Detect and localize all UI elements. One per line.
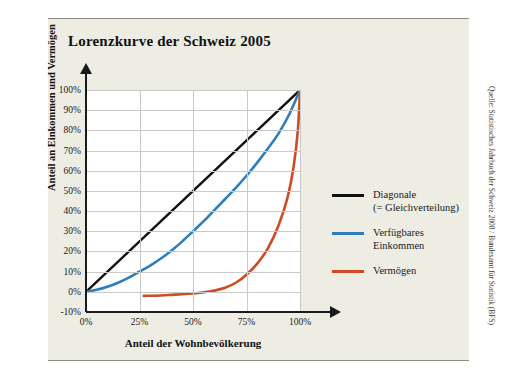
legend-label-line: (= Gleichverteilung) — [373, 202, 467, 215]
x-tick-label: 25% — [131, 317, 148, 327]
legend-label-line: Diagonale — [373, 189, 467, 202]
bottom-divider-rule — [48, 360, 469, 361]
legend-label-line: Einkommen — [373, 240, 467, 253]
legend-label-line: Verfügbares — [373, 227, 467, 240]
y-tick-label: -10% — [48, 307, 81, 317]
y-tick-label: 10% — [48, 267, 81, 277]
legend-item: Vermögen — [332, 265, 467, 278]
figure-panel: Lorenzkurve der Schweiz 2005 -10%0%10%20… — [48, 19, 469, 360]
plot-area — [86, 90, 300, 312]
y-axis-arrow-icon — [80, 63, 92, 74]
source-citation: Quelle: Statistisches Jahrbuch der Schwe… — [487, 86, 496, 325]
legend-item: VerfügbaresEinkommen — [332, 227, 467, 252]
x-axis-title: Anteil der Wohnbevölkerung — [125, 337, 262, 349]
gridline-vertical — [193, 90, 194, 312]
x-tick-label: 50% — [184, 317, 201, 327]
x-tick-label: 100% — [289, 317, 311, 327]
legend-color-swatch — [332, 270, 364, 273]
x-tick-label: 75% — [238, 317, 255, 327]
legend-item: Diagonale(= Gleichverteilung) — [332, 189, 467, 214]
legend-color-swatch — [332, 194, 364, 197]
y-tick-label: 0% — [48, 287, 81, 297]
legend-label: VerfügbaresEinkommen — [373, 227, 467, 252]
gridline-vertical — [247, 90, 248, 312]
x-axis-arrow-icon — [330, 306, 341, 318]
y-tick-label: 20% — [48, 246, 81, 256]
gridline-vertical — [140, 90, 141, 312]
x-tick-label: 0% — [80, 317, 93, 327]
legend-label: Diagonale(= Gleichverteilung) — [373, 189, 467, 214]
gridline-vertical — [300, 90, 301, 312]
series-line — [144, 90, 300, 296]
y-tick-label: 40% — [48, 206, 81, 216]
y-axis-title: Anteil an Einkommen und Vermögen — [46, 24, 57, 191]
y-axis-line — [85, 71, 87, 312]
chart-legend: Diagonale(= Gleichverteilung)Verfügbares… — [332, 189, 467, 291]
figure-page: Lorenzkurve der Schweiz 2005 -10%0%10%20… — [0, 0, 511, 379]
legend-label-line: Vermögen — [373, 265, 467, 278]
y-tick-label: 30% — [48, 226, 81, 236]
legend-color-swatch — [332, 232, 364, 235]
x-axis-line — [86, 311, 332, 313]
legend-label: Vermögen — [373, 265, 467, 278]
